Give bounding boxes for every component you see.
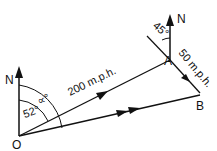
double-arrowhead-ob-1 — [116, 110, 128, 117]
north-arrowhead-o — [15, 66, 23, 78]
origin-label: O — [12, 138, 21, 151]
speed-label-ab: 50 m.p.h. — [176, 47, 215, 90]
double-arrowhead-ob-2 — [128, 107, 140, 114]
vector-diagram: N N 45° ∝° 52° O A B 200 m.p.h. 50 m.p.h… — [0, 0, 217, 151]
point-b-label: B — [196, 99, 204, 113]
diagram-canvas: N N 45° ∝° 52° O A B 200 m.p.h. 50 m.p.h… — [0, 0, 217, 151]
arrowhead-ab — [181, 74, 190, 82]
north-label-o: N — [5, 73, 14, 87]
speed-label-oa: 200 m.p.h. — [66, 64, 118, 98]
point-a-label: A — [164, 54, 172, 68]
arrowhead-oa — [96, 91, 108, 100]
north-label-a: N — [177, 12, 186, 26]
north-arrowhead-a — [166, 14, 174, 26]
angle-label-alpha: ∝° — [35, 91, 51, 107]
